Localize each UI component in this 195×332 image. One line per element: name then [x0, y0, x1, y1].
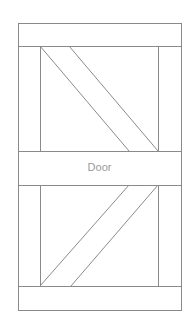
door-label: Door — [18, 158, 181, 176]
upper-brace-line-2 — [69, 46, 158, 151]
upper-brace-line-1 — [40, 46, 129, 151]
